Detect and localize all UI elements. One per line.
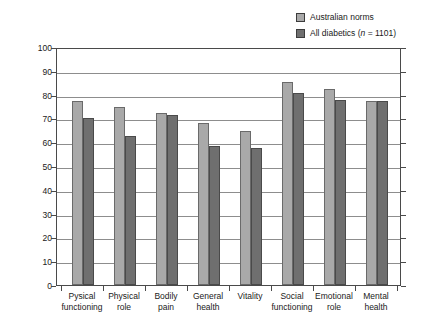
bar-australian-norms xyxy=(114,107,125,285)
bar-australian-norms xyxy=(240,131,251,285)
legend-swatch-australian-norms xyxy=(296,13,305,22)
y-axis-right-tick-mark xyxy=(401,119,406,120)
legend-item-australian-norms: Australian norms xyxy=(296,10,424,24)
y-axis-tick-label: 0 xyxy=(22,282,52,291)
bar-australian-norms xyxy=(156,113,167,285)
legend-swatch-all-diabetics xyxy=(296,29,305,38)
y-axis-tick-label: 10 xyxy=(22,258,52,267)
bar-australian-norms xyxy=(72,101,83,285)
bar-australian-norms xyxy=(366,101,377,285)
x-axis-tick-mark xyxy=(397,286,398,291)
gridline xyxy=(57,73,400,74)
y-axis-tick-label: 40 xyxy=(22,187,52,196)
y-axis-tick-label: 90 xyxy=(22,68,52,77)
y-axis-right-tick-mark xyxy=(401,72,406,73)
gridline xyxy=(57,168,400,169)
y-axis-right-tick-mark xyxy=(401,48,406,49)
x-axis-category-label-line: Mental xyxy=(341,291,411,302)
gridline xyxy=(57,263,400,264)
legend-label-australian-norms: Australian norms xyxy=(310,13,374,22)
plot-area xyxy=(56,48,401,286)
y-axis-tick-label: 20 xyxy=(22,234,52,243)
bar-all-diabetics xyxy=(251,148,262,285)
legend-label-all-diabetics-suffix: = 1101) xyxy=(365,28,396,38)
bar-australian-norms xyxy=(198,123,209,285)
y-axis-tick-label: 100 xyxy=(22,44,52,53)
legend-label-all-diabetics-prefix: All diabetics ( xyxy=(310,28,361,38)
y-axis-right-tick-mark xyxy=(401,143,406,144)
y-axis-right-tick-mark xyxy=(401,191,406,192)
x-axis-category-label-line: health xyxy=(341,302,411,313)
bar-all-diabetics xyxy=(335,100,346,285)
gridline xyxy=(57,192,400,193)
bar-all-diabetics xyxy=(377,101,388,285)
bar-australian-norms xyxy=(282,82,293,285)
legend-item-all-diabetics: All diabetics (n = 1101) xyxy=(296,26,424,40)
bar-all-diabetics xyxy=(293,93,304,285)
y-axis-tick-mark xyxy=(51,286,56,287)
y-axis-right-tick-mark xyxy=(401,167,406,168)
y-axis-right-tick-mark xyxy=(401,262,406,263)
y-axis-tick-label: 30 xyxy=(22,211,52,220)
y-axis-right-tick-mark xyxy=(401,96,406,97)
y-axis-right-tick-mark xyxy=(401,286,406,287)
y-axis-tick-label: 60 xyxy=(22,139,52,148)
chart-legend: Australian norms All diabetics (n = 1101… xyxy=(296,10,424,42)
x-axis-category-label: Mentalhealth xyxy=(341,291,411,313)
legend-label-all-diabetics: All diabetics (n = 1101) xyxy=(310,29,396,38)
gridline xyxy=(57,216,400,217)
bar-all-diabetics xyxy=(83,118,94,285)
gridline xyxy=(57,120,400,121)
gridline xyxy=(57,97,400,98)
y-axis-tick-label: 70 xyxy=(22,115,52,124)
y-axis-right-tick-mark xyxy=(401,215,406,216)
bar-all-diabetics xyxy=(125,136,136,285)
bar-all-diabetics xyxy=(167,115,178,285)
bar-all-diabetics xyxy=(209,146,220,285)
chart-figure: Australian norms All diabetics (n = 1101… xyxy=(0,0,424,330)
bar-australian-norms xyxy=(324,89,335,285)
y-axis-tick-label: 50 xyxy=(22,163,52,172)
x-axis-category-label-line: health xyxy=(173,302,243,313)
gridline xyxy=(57,144,400,145)
gridline xyxy=(57,239,400,240)
y-axis-right-tick-mark xyxy=(401,238,406,239)
y-axis-tick-label: 80 xyxy=(22,92,52,101)
